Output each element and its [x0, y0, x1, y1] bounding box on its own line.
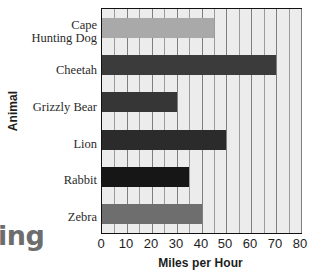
bar-chart: ing Animal Cape Hunting Dog Cheetah Griz… [0, 0, 309, 278]
bar-cheetah [102, 55, 276, 75]
x-tick-label-50: 50 [218, 236, 232, 251]
x-tick-label-20: 20 [144, 236, 158, 251]
bar-cape-hunting-dog [102, 18, 214, 38]
gridline-major [301, 9, 302, 233]
x-tick-label-60: 60 [243, 236, 257, 251]
category-label-cape-hunting-dog: Cape Hunting Dog [8, 19, 97, 45]
category-label-lion: Lion [8, 138, 97, 151]
category-label-rabbit: Rabbit [8, 174, 97, 187]
x-tick-label-10: 10 [119, 236, 133, 251]
bar-lion [102, 130, 226, 150]
category-label-line-2: Hunting Dog [8, 32, 97, 45]
bar-series [102, 9, 301, 233]
bar-zebra [102, 204, 202, 224]
x-axis-ticks: 01020304050607080 [101, 236, 300, 252]
x-tick-label-30: 30 [169, 236, 183, 251]
x-tick-label-40: 40 [194, 236, 208, 251]
x-tick-label-0: 0 [97, 236, 104, 251]
bar-grizzly-bear [102, 92, 177, 112]
x-tick-label-80: 80 [293, 236, 307, 251]
plot-area [101, 8, 302, 234]
x-axis-title: Miles per Hour [101, 256, 300, 270]
bar-rabbit [102, 167, 189, 187]
x-tick-label-70: 70 [268, 236, 282, 251]
category-label-column: Cape Hunting Dog Cheetah Grizzly Bear Li… [8, 8, 97, 232]
category-label-grizzly-bear: Grizzly Bear [8, 101, 97, 114]
category-label-zebra: Zebra [8, 211, 97, 224]
category-label-cheetah: Cheetah [8, 64, 97, 77]
chart-title-clipped [150, 0, 300, 1]
